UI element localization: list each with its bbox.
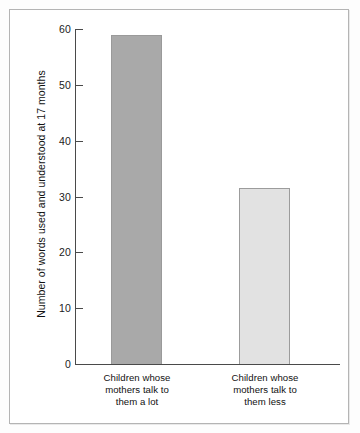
y-axis-tick-20: [76, 252, 83, 253]
y-axis-tick-0: [76, 364, 83, 365]
bar-children-mothers-talk-less: [239, 188, 290, 364]
y-axis-tick-label-0: 0: [31, 359, 71, 370]
figure-border-frame: Number of words used and understood at 1…: [9, 9, 349, 424]
figure-root: Number of words used and understood at 1…: [0, 0, 360, 433]
y-axis-tick-label-50: 50: [31, 80, 71, 91]
y-axis-tick-label-20: 20: [31, 247, 71, 258]
bar-children-mothers-talk-a-lot: [111, 35, 162, 364]
cat-label-1-line-2: them less: [201, 396, 329, 408]
cat-label-1-line-0: Children whose: [201, 372, 329, 384]
y-axis-tick-10: [76, 308, 83, 309]
y-axis-tick-30: [76, 197, 83, 198]
cat-label-0-line-1: mothers talk to: [73, 384, 201, 396]
y-axis-tick-60: [76, 29, 83, 30]
x-axis-category-label-0: Children whose mothers talk to them a lo…: [73, 372, 201, 409]
x-axis-line: [75, 364, 340, 365]
y-axis-tick-label-60: 60: [31, 24, 71, 35]
cat-label-0-line-0: Children whose: [73, 372, 201, 384]
y-axis-tick-label-10: 10: [31, 303, 71, 314]
y-axis-tick-label-40: 40: [31, 136, 71, 147]
y-axis-tick-40: [76, 141, 83, 142]
plot-area: Number of words used and understood at 1…: [10, 10, 350, 425]
y-axis-tick-50: [76, 85, 83, 86]
cat-label-0-line-2: them a lot: [73, 396, 201, 408]
cat-label-1-line-1: mothers talk to: [201, 384, 329, 396]
x-axis-category-label-1: Children whose mothers talk to them less: [201, 372, 329, 409]
y-axis-tick-label-30: 30: [31, 192, 71, 203]
